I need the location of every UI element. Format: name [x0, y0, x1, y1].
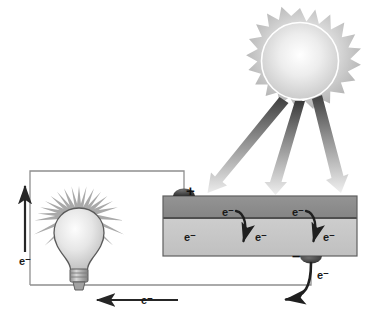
electron-label-panel-bot-left: e⁻	[184, 231, 196, 243]
bulb-contact-tip	[73, 282, 85, 290]
circuit-wire-left-top	[30, 171, 184, 285]
electron-label-bottom-wire: e⁻	[141, 294, 153, 306]
solar-cell-diagram: + – e⁻ e⁻ e⁻ e⁻ e⁻ e⁻ e⁻ e⁻	[0, 0, 374, 321]
panel-top-layer	[163, 196, 357, 218]
bulb-glass	[54, 208, 104, 270]
electron-label-panel-top-right: e⁻	[292, 206, 304, 218]
light-rays-group	[208, 95, 349, 195]
electron-return-curved-arrow	[286, 263, 311, 300]
solar-panel	[163, 196, 357, 256]
electron-label-left-wire: e⁻	[19, 255, 31, 267]
light-bulb	[34, 186, 124, 290]
electron-label-panel-bot-mid: e⁻	[255, 231, 267, 243]
diagram-canvas: + – e⁻ e⁻ e⁻ e⁻ e⁻ e⁻ e⁻ e⁻	[0, 0, 374, 321]
electron-label-right-return: e⁻	[317, 269, 329, 281]
bulb-screw-base	[70, 269, 88, 282]
sun-icon	[246, 7, 361, 109]
positive-sign: +	[186, 182, 195, 199]
light-ray-3	[312, 95, 349, 193]
sun-core-circle	[262, 23, 339, 100]
electron-label-panel-bot-right: e⁻	[323, 231, 335, 243]
electron-label-panel-top-left: e⁻	[222, 206, 234, 218]
negative-sign: –	[292, 247, 300, 264]
sun-group	[246, 7, 361, 109]
